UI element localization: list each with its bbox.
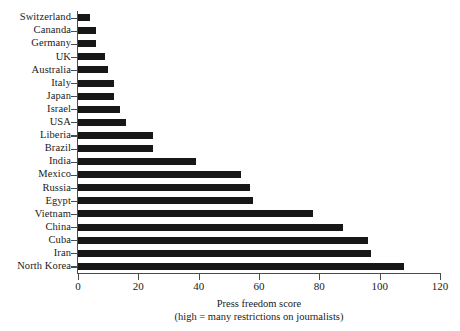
bar-row bbox=[78, 24, 440, 37]
bar bbox=[78, 197, 253, 204]
y-axis-labels: SwitzerlandCanandaGermanyUKAustraliaItal… bbox=[0, 11, 72, 273]
bar-row bbox=[78, 207, 440, 220]
y-axis-label: Italy bbox=[0, 76, 72, 89]
bar-series bbox=[78, 11, 440, 273]
bar-row bbox=[78, 260, 440, 273]
x-axis-tick-label: 100 bbox=[371, 281, 388, 292]
bar bbox=[78, 53, 105, 60]
bar bbox=[78, 119, 126, 126]
x-axis-tick-label: 40 bbox=[193, 281, 204, 292]
x-axis-tick-label: 0 bbox=[75, 281, 81, 292]
y-axis-tick bbox=[71, 31, 77, 32]
y-axis-tick bbox=[71, 109, 77, 110]
bar bbox=[78, 158, 196, 165]
bar bbox=[78, 210, 313, 217]
bar bbox=[78, 184, 250, 191]
y-axis-label: Brazil bbox=[0, 142, 72, 155]
bar bbox=[78, 224, 343, 231]
bar-row bbox=[78, 194, 440, 207]
y-axis-tick bbox=[71, 240, 77, 241]
bar bbox=[78, 14, 90, 21]
bar bbox=[78, 250, 371, 257]
y-axis-tick bbox=[71, 44, 77, 45]
bar bbox=[78, 40, 96, 47]
y-axis-tick bbox=[71, 57, 77, 58]
x-axis-title: Press freedom score bbox=[78, 297, 440, 310]
x-axis-caption: Press freedom score (high = many restric… bbox=[78, 297, 440, 323]
bar-row bbox=[78, 11, 440, 24]
bar-row bbox=[78, 50, 440, 63]
y-axis-tick bbox=[71, 253, 77, 254]
bar-row bbox=[78, 234, 440, 247]
bar-row bbox=[78, 181, 440, 194]
bar-row bbox=[78, 76, 440, 89]
y-axis-label: Egypt bbox=[0, 194, 72, 207]
y-axis-label: Iran bbox=[0, 247, 72, 260]
y-axis-label: Israel bbox=[0, 103, 72, 116]
y-axis-tick bbox=[71, 96, 77, 97]
y-axis-tick bbox=[71, 227, 77, 228]
bar-row bbox=[78, 221, 440, 234]
y-axis-label: USA bbox=[0, 116, 72, 129]
y-axis-tick bbox=[71, 83, 77, 84]
bar-row bbox=[78, 103, 440, 116]
bar bbox=[78, 237, 368, 244]
y-axis-tick bbox=[71, 149, 77, 150]
y-axis-label: Switzerland bbox=[0, 11, 72, 24]
y-axis-tick bbox=[71, 175, 77, 176]
bar bbox=[78, 106, 120, 113]
y-axis-label: Japan bbox=[0, 90, 72, 103]
bar-row bbox=[78, 155, 440, 168]
y-axis-label: Germany bbox=[0, 37, 72, 50]
y-axis-tick bbox=[71, 122, 77, 123]
bar-row bbox=[78, 116, 440, 129]
x-axis-tick-label: 80 bbox=[314, 281, 325, 292]
y-axis-tick bbox=[71, 135, 77, 136]
y-axis-label: North Korea bbox=[0, 260, 72, 273]
y-axis-label: China bbox=[0, 221, 72, 234]
bar bbox=[78, 93, 114, 100]
bar-row bbox=[78, 63, 440, 76]
bar bbox=[78, 171, 241, 178]
y-axis-tick bbox=[71, 266, 77, 267]
y-axis-tick bbox=[71, 18, 77, 19]
bar-row bbox=[78, 247, 440, 260]
x-axis-tick-label: 20 bbox=[133, 281, 144, 292]
y-axis-label: India bbox=[0, 155, 72, 168]
y-axis-tick bbox=[71, 162, 77, 163]
press-freedom-bar-chart: SwitzerlandCanandaGermanyUKAustraliaItal… bbox=[0, 0, 460, 331]
y-axis-label: Cananda bbox=[0, 24, 72, 37]
bar-row bbox=[78, 168, 440, 181]
bar bbox=[78, 145, 153, 152]
y-axis-label: Liberia bbox=[0, 129, 72, 142]
y-axis-label: Cuba bbox=[0, 234, 72, 247]
bar-row bbox=[78, 37, 440, 50]
y-axis-label: Mexico bbox=[0, 168, 72, 181]
bar bbox=[78, 263, 404, 270]
x-axis-subtitle: (high = many restrictions on journalists… bbox=[78, 310, 440, 323]
bar bbox=[78, 80, 114, 87]
y-axis-tick bbox=[71, 201, 77, 202]
y-axis-label: Australia bbox=[0, 63, 72, 76]
y-axis-label: UK bbox=[0, 50, 72, 63]
y-axis-label: Vietnam bbox=[0, 207, 72, 220]
plot-area bbox=[78, 11, 440, 273]
y-axis-tick bbox=[71, 214, 77, 215]
bar-row bbox=[78, 90, 440, 103]
bar-row bbox=[78, 129, 440, 142]
bar bbox=[78, 27, 96, 34]
y-axis-tick bbox=[71, 188, 77, 189]
x-axis-tick-label: 60 bbox=[254, 281, 265, 292]
bar bbox=[78, 66, 108, 73]
y-axis-tick bbox=[71, 70, 77, 71]
y-axis-label: Russia bbox=[0, 181, 72, 194]
bar bbox=[78, 132, 153, 139]
x-axis-tick-label: 120 bbox=[432, 281, 449, 292]
bar-row bbox=[78, 142, 440, 155]
